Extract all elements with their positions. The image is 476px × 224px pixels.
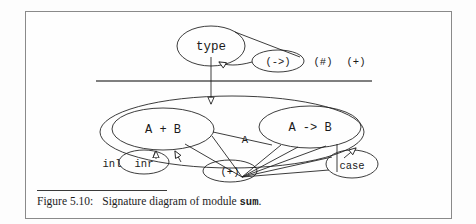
caption-text-before: Signature diagram of module: [102, 195, 236, 207]
figure-caption: Figure 5.10:Signature diagram of module …: [37, 194, 442, 209]
caption-text-after: .: [258, 195, 261, 207]
inl-op-label: inl: [103, 158, 122, 170]
edge-arrowtype-down-1: [242, 147, 298, 177]
arrow-op-label: (->): [265, 56, 290, 68]
plus-constructor-label: (+): [221, 166, 240, 178]
caption-rule: [37, 190, 167, 191]
signature-diagram: type (->) (#) (+) A + B A -> B A inl inr…: [26, 12, 453, 220]
edge-label-a: A: [242, 134, 249, 146]
inr-op-label: inr: [135, 158, 154, 170]
case-op-label: case: [339, 160, 364, 172]
edge-plus-to-case-2: [242, 170, 329, 177]
edge-plus-to-sum-arrow: [175, 151, 181, 162]
caption-number: Figure 5.10:: [37, 195, 93, 207]
sum-type-label: A + B: [145, 123, 181, 137]
caption-module-name: sum: [240, 196, 259, 208]
plus-op-label: (+): [347, 56, 366, 68]
type-node-label: type: [196, 40, 226, 54]
figure-frame: type (->) (#) (+) A + B A -> B A inl inr…: [25, 11, 452, 219]
hash-op-label: (#): [314, 56, 333, 68]
arrow-type-label: A -> B: [288, 121, 331, 135]
scanned-page: scanned page bleed-through text faint re…: [0, 0, 476, 224]
edge-case-to-body-arrow: [344, 148, 356, 158]
edge-arrowtype-to-plus: [242, 145, 281, 177]
